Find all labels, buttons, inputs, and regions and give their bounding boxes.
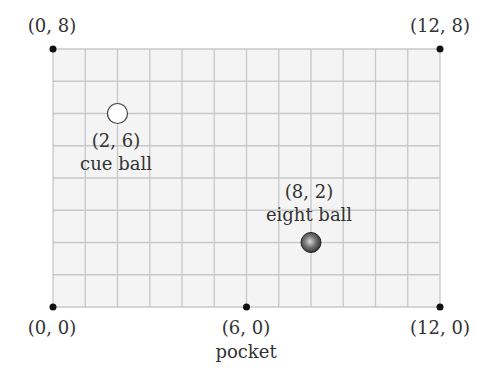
pocket-coord-label: (6, 0) xyxy=(222,318,270,338)
cue-ball-name-label: cue ball xyxy=(80,154,152,174)
corner-label-bottom-left: (0, 0) xyxy=(28,318,76,338)
eight-ball-name-label: eight ball xyxy=(266,205,352,225)
corner-point xyxy=(50,46,57,53)
cue-ball-icon xyxy=(108,104,128,124)
pocket-point xyxy=(243,304,250,311)
cue-ball-coord-label: (2, 6) xyxy=(92,131,140,151)
eight-ball-icon xyxy=(301,233,321,253)
eight-ball-coord-label: (8, 2) xyxy=(285,182,333,202)
corner-label-top-right: (12, 8) xyxy=(410,16,470,36)
corner-label-bottom-right: (12, 0) xyxy=(410,318,470,338)
corner-point xyxy=(437,46,444,53)
pocket-name-label: pocket xyxy=(215,342,276,362)
corner-point xyxy=(50,304,57,311)
corner-point xyxy=(437,304,444,311)
coordinate-diagram: (0, 8) (12, 8) (0, 0) (12, 0) (6, 0) poc… xyxy=(0,0,500,381)
corner-label-top-left: (0, 8) xyxy=(28,16,76,36)
